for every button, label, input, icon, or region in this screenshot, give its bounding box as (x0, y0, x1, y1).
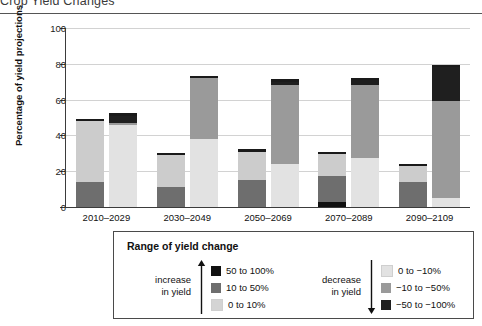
legend-increase-label: increase in yield (127, 274, 191, 298)
bar-segment (238, 152, 266, 181)
bar-segment (318, 176, 346, 202)
bar-2090-2109-decrease[interactable] (432, 65, 460, 207)
legend-increase-label-line2: in yield (127, 286, 191, 298)
legend-increase-items: 50 to 100%10 to 50%0 to 10% (211, 262, 274, 313)
bar-2010-2029-increase[interactable] (76, 119, 104, 207)
legend-item[interactable]: −50 to −100% (381, 296, 455, 313)
legend-item-label: 0 to −10% (398, 266, 441, 276)
legend-title: Range of yield change (127, 240, 238, 252)
bar-segment (399, 182, 427, 207)
bar-segment (109, 125, 137, 207)
bar-segment (432, 101, 460, 198)
x-axis-line (65, 207, 470, 208)
bar-segment (238, 180, 266, 207)
legend-item-label: −10 to −50% (396, 283, 450, 293)
bar-2090-2109-increase[interactable] (399, 164, 427, 207)
legend-box: Range of yield change increase in yield … (113, 231, 474, 319)
bar-segment (432, 67, 460, 101)
bar-2050-2069-increase[interactable] (238, 149, 266, 207)
legend-swatch-icon (381, 300, 391, 310)
bar-segment (190, 78, 218, 139)
bar-segment (157, 155, 185, 187)
legend-item-label: 10 to 50% (226, 283, 269, 293)
y-tick-label-100: 100 (50, 23, 66, 34)
bar-2070-2089-decrease[interactable] (351, 78, 379, 207)
x-axis-label-2030-2049: 2030–2049 (163, 212, 211, 223)
bar-2030-2049-increase[interactable] (157, 153, 185, 207)
bar-2070-2089-increase[interactable] (318, 152, 346, 207)
legend-swatch-icon (381, 265, 393, 277)
bar-2030-2049-decrease[interactable] (190, 76, 218, 207)
legend-item-label: 50 to 100% (226, 266, 274, 276)
bar-segment (271, 85, 299, 164)
plot-area (66, 28, 470, 207)
bar-segment (432, 198, 460, 207)
bar-segment (318, 202, 346, 207)
legend-item[interactable]: 50 to 100% (211, 262, 274, 279)
legend-item[interactable]: 0 to 10% (211, 296, 274, 313)
legend-group-decrease: decrease in yield 0 to −10%−10 to −50%−5… (297, 260, 472, 314)
y-axis-title: Percentage of yield projections (13, 0, 24, 166)
bar-segment (399, 166, 427, 182)
bar-segment (109, 116, 137, 123)
legend-decrease-items: 0 to −10%−10 to −50%−50 to −100% (381, 262, 455, 313)
bar-2010-2029-decrease[interactable] (109, 113, 137, 207)
legend-item-label: 0 to 10% (228, 300, 266, 310)
legend-swatch-icon (211, 283, 221, 293)
legend-decrease-label-line2: in yield (297, 286, 361, 298)
bar-segment (76, 121, 104, 182)
title-divider (0, 13, 482, 14)
x-axis-label-2050-2069: 2050–2069 (244, 212, 292, 223)
crop-yield-bar-chart: Percentage of yield projections 02040608… (0, 20, 482, 220)
bar-segment (351, 158, 379, 207)
x-axis-label-2070-2089: 2070–2089 (325, 212, 373, 223)
x-axis-label-2010-2029: 2010–2029 (83, 212, 131, 223)
bar-segment (76, 182, 104, 207)
legend-decrease-label: decrease in yield (297, 274, 361, 298)
legend-swatch-icon (211, 299, 223, 311)
bar-2050-2069-decrease[interactable] (271, 79, 299, 207)
legend-item[interactable]: −10 to −50% (381, 279, 455, 296)
legend-group-increase: increase in yield 50 to 100%10 to 50%0 t… (127, 260, 287, 314)
legend-increase-label-line1: increase (127, 274, 191, 286)
bar-segment (351, 85, 379, 157)
bar-segment (157, 187, 185, 207)
bar-segment (318, 154, 346, 175)
legend-decrease-label-line1: decrease (297, 274, 361, 286)
bar-segment (271, 164, 299, 207)
x-axis-label-2090-2109: 2090–2109 (406, 212, 454, 223)
legend-item[interactable]: 0 to −10% (381, 262, 455, 279)
legend-swatch-icon (381, 283, 391, 293)
legend-swatch-icon (211, 266, 221, 276)
bar-segment (190, 139, 218, 207)
legend-item[interactable]: 10 to 50% (211, 279, 274, 296)
arrow-up-icon (197, 260, 206, 314)
arrow-down-icon (367, 260, 376, 314)
legend-item-label: −50 to −100% (396, 300, 455, 310)
